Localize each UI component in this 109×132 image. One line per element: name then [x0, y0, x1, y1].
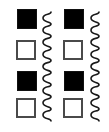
wavy-line: [0, 0, 109, 132]
